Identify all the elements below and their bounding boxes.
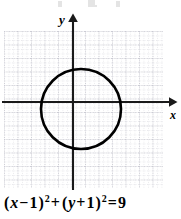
equation-minus-sign: − [18,194,29,211]
x-axis-label: x [170,109,176,121]
circle-graph-figure: y x (x−1)2+(y+1)2=9 [0,0,181,219]
equation-rhs-value: 9 [118,194,126,211]
coordinate-plane [0,0,181,219]
equation-close-paren-1: ) [37,194,44,211]
y-axis-label: y [59,13,65,26]
equation-plus-sign: + [50,194,61,211]
equation-close-paren-2: ) [94,194,101,211]
circle-equation: (x−1)2+(y+1)2=9 [3,191,179,215]
grid-major [4,31,163,188]
equation-inner-plus-sign: + [75,194,86,211]
equation-equals-sign: = [107,194,118,211]
